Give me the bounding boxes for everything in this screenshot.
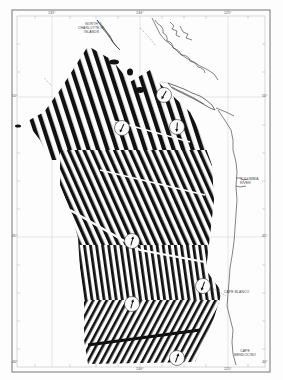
lon-label-130-bottom: 130° — [136, 367, 143, 371]
lat-label-40-left: 40° — [12, 360, 17, 364]
circled-arrow-icon — [125, 297, 140, 312]
circled-arrow-icon — [170, 351, 185, 366]
lat-label-50-right: 50° — [262, 94, 267, 98]
label-cape-blanco: CAPE BLANCO — [224, 291, 249, 295]
circled-arrow-icon — [170, 120, 185, 135]
circled-arrow-icon — [125, 234, 140, 249]
lon-label-130-top: 130° — [136, 11, 143, 15]
circled-arrow-icon — [157, 88, 172, 103]
lat-label-40-right: 40° — [262, 360, 267, 364]
lon-label-125-bottom: 125° — [224, 367, 231, 371]
anomaly-map — [0, 0, 283, 380]
circled-arrow-icon — [196, 279, 211, 294]
lat-label-45-left: 45° — [12, 234, 17, 238]
label-cape-mendocino: CAPE MENDOCINO — [234, 350, 256, 358]
lon-label-125-top: 125° — [224, 11, 231, 15]
label-queen-charlotte-islands: NORTH CHARLOTTE IS. ISLANDS — [78, 23, 105, 34]
circled-arrow-icon — [115, 121, 130, 136]
lon-label-135-top: 135° — [48, 11, 55, 15]
lat-label-50-left: 50° — [12, 94, 17, 98]
label-columbia-river: COLUMBIA RIVER — [240, 178, 259, 186]
lat-label-45-right: 45° — [262, 234, 267, 238]
